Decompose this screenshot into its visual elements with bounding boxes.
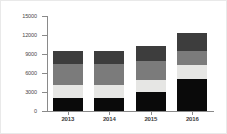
y-axis-tick-label: 9000	[1, 51, 37, 57]
bar-segment-series-4	[94, 51, 124, 64]
bar-segment-series-3	[177, 51, 207, 65]
plot-area	[47, 16, 213, 111]
bar-segment-series-3	[136, 61, 166, 80]
bar-segment-series-2	[136, 80, 166, 92]
bar-segment-series-4	[136, 46, 166, 61]
bar-segment-series-2	[177, 65, 207, 79]
x-axis-tick-label: 2015	[131, 116, 171, 123]
y-axis-tick-label: 6000	[1, 70, 37, 76]
bar-segment-series-1	[177, 79, 207, 111]
bar-segment-series-4	[53, 51, 83, 64]
bar-segment-series-4	[177, 33, 207, 51]
bar-segment-series-1	[94, 98, 124, 111]
bar-2015	[136, 46, 166, 111]
bar-segment-series-3	[94, 64, 124, 86]
x-axis-line	[47, 111, 214, 112]
bar-2013	[53, 51, 83, 111]
x-axis-tick	[109, 112, 110, 115]
y-axis-tick-label: 15000	[1, 13, 37, 19]
y-axis-tick	[42, 111, 47, 112]
y-axis-tick-label: 12000	[1, 32, 37, 38]
bar-2016	[177, 33, 207, 111]
x-axis-tick	[151, 112, 152, 115]
bar-segment-series-3	[53, 64, 83, 85]
bar-2014	[94, 51, 124, 111]
x-axis-tick	[192, 112, 193, 115]
x-axis-tick	[68, 112, 69, 115]
bar-segment-series-1	[53, 98, 83, 111]
x-axis-tick-label: 2016	[172, 116, 212, 123]
chart-figure: 03000600090001200015000 2013201420152016	[0, 0, 227, 134]
x-axis-tick-label: 2013	[48, 116, 88, 123]
bar-segment-series-1	[136, 92, 166, 111]
x-axis-tick-label: 2014	[89, 116, 129, 123]
y-axis-tick-label: 0	[1, 108, 37, 114]
bar-segment-series-2	[94, 85, 124, 98]
y-axis-tick-label: 3000	[1, 89, 37, 95]
bar-segment-series-2	[53, 85, 83, 98]
